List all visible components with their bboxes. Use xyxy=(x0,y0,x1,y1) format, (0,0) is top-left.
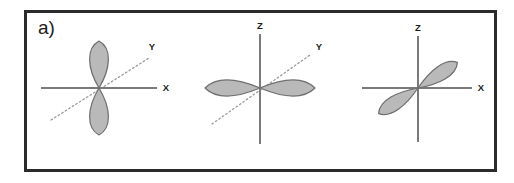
panel-label: a) xyxy=(38,18,55,37)
figure-frame xyxy=(24,10,497,172)
figure-root: a) Y X Z Y xyxy=(0,0,514,183)
